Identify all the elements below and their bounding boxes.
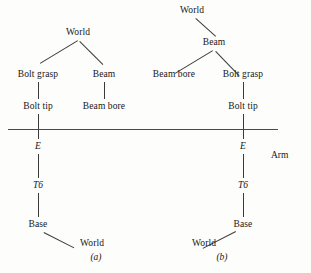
edge-a-bolttip-e (38, 114, 39, 139)
edge-b-t6-base (243, 193, 244, 217)
caption-panel-a: (a) (90, 252, 101, 262)
node-a-base: Base (29, 219, 48, 230)
edge-b-e-t6 (243, 154, 244, 178)
node-a-beam: Beam (93, 69, 116, 80)
node-a-bolt-grasp: Bolt grasp (18, 69, 58, 80)
node-a-frame-e: E (35, 141, 41, 152)
node-b-frame-t6: T6 (238, 180, 248, 191)
edge-a-beam-beambore (104, 82, 105, 99)
node-a-bolt-tip: Bolt tip (23, 101, 53, 112)
node-a-beam-bore: Beam bore (83, 101, 125, 112)
node-b-root-world: World (180, 5, 204, 16)
edge-a-t6-base (38, 193, 39, 217)
edge-a-base-world (44, 232, 74, 248)
caption-panel-b: (b) (216, 252, 227, 262)
node-b-leaf-world: World (192, 238, 216, 249)
edge-a-boltgrasp-bolttip (38, 82, 39, 99)
node-b-beam-bore: Beam bore (153, 69, 195, 80)
node-b-base: Base (234, 219, 253, 230)
edge-a-world-boltgrasp (40, 40, 78, 64)
node-a-leaf-world: World (80, 238, 104, 249)
node-a-frame-t6: T6 (33, 180, 43, 191)
node-b-bolt-tip: Bolt tip (228, 101, 258, 112)
edge-a-world-beam (79, 41, 103, 65)
figure-canvas: World Bolt grasp Beam Bolt tip Beam bore… (0, 0, 311, 273)
edge-b-world-beam (195, 18, 216, 37)
node-a-root-world: World (66, 27, 90, 38)
arm-label: Arm (271, 150, 288, 160)
node-b-frame-e: E (240, 141, 246, 152)
node-b-beam: Beam (203, 37, 226, 48)
edge-b-boltgrasp-bolttip (243, 82, 244, 99)
edge-b-bolttip-e (243, 114, 244, 139)
edge-a-e-t6 (38, 154, 39, 178)
arm-boundary-line (8, 129, 278, 130)
node-b-bolt-grasp: Bolt grasp (223, 69, 263, 80)
